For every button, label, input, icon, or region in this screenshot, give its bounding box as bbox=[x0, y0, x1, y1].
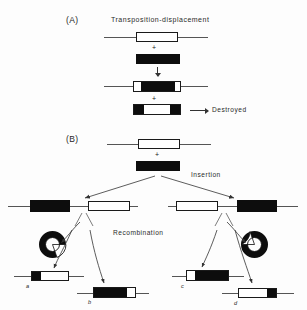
product-c-arrow bbox=[202, 230, 217, 267]
plus-sign-b1: + bbox=[155, 151, 160, 158]
destroyed-label: Destroyed bbox=[212, 106, 247, 113]
destroyed-black-left bbox=[134, 105, 144, 114]
transposon-open-a1 bbox=[136, 32, 178, 42]
transposon-black-b2 bbox=[136, 161, 180, 171]
left-white-element bbox=[88, 201, 130, 211]
product-a-label: a bbox=[26, 283, 30, 289]
plus-sign-a2: + bbox=[152, 95, 157, 102]
product-a-black-part bbox=[32, 272, 41, 280]
product-b-element bbox=[93, 287, 136, 298]
right-white-element bbox=[176, 201, 218, 211]
left-cross-guide-2 bbox=[86, 213, 93, 226]
product-c-black-part bbox=[195, 271, 228, 280]
left-circle-icon bbox=[39, 231, 66, 258]
right-cross-guide-2 bbox=[226, 213, 233, 226]
product-d-black-part bbox=[267, 289, 276, 297]
product-a-element bbox=[31, 271, 69, 281]
insertion-label: Insertion bbox=[191, 171, 221, 178]
figure-root: (A) Transposition-displacement + + Destr… bbox=[0, 0, 307, 310]
transposon-open-b1 bbox=[138, 139, 180, 149]
transposon-black-a2 bbox=[136, 54, 180, 64]
product-c-element bbox=[186, 270, 229, 281]
left-cross-guide-1 bbox=[75, 213, 82, 226]
product-b-arrow bbox=[90, 230, 104, 283]
product-b-black-part bbox=[94, 288, 127, 297]
composite-black-core-a3 bbox=[141, 82, 175, 91]
right-cross-guide-1 bbox=[215, 213, 222, 226]
product-a-arrow bbox=[54, 230, 72, 268]
product-b-label: b bbox=[88, 299, 92, 305]
panel-a-letter: (A) bbox=[66, 15, 79, 25]
left-circle-arrow bbox=[62, 222, 81, 243]
panel-b-letter: (B) bbox=[66, 134, 79, 144]
product-d-element bbox=[238, 288, 277, 298]
left-black-element bbox=[30, 200, 70, 212]
branch-arrow-left bbox=[85, 176, 155, 198]
recombination-label: Recombination bbox=[113, 229, 163, 236]
right-circle-arrow bbox=[227, 222, 246, 243]
right-black-element bbox=[237, 200, 277, 212]
destroyed-black-right bbox=[170, 105, 180, 114]
right-circle-icon bbox=[241, 231, 268, 258]
destroyed-arrow bbox=[190, 110, 208, 111]
transposon-composite-a3 bbox=[133, 81, 181, 92]
product-d-label: d bbox=[234, 300, 238, 306]
product-c-label: c bbox=[181, 283, 184, 289]
plus-sign-a1: + bbox=[152, 44, 157, 51]
panel-a-title: Transposition-displacement bbox=[111, 16, 209, 23]
down-arrow-a bbox=[157, 67, 158, 76]
destroyed-element-a4 bbox=[133, 104, 181, 115]
branch-arrow-right bbox=[161, 176, 234, 198]
